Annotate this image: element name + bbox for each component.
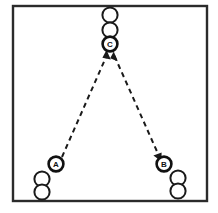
player-a[interactable]: A bbox=[49, 157, 64, 172]
diagram-canvas: C A B bbox=[0, 0, 218, 213]
player-c[interactable]: C bbox=[103, 37, 118, 52]
player-a-label: A bbox=[53, 160, 59, 169]
drill-diagram: C A B bbox=[0, 0, 218, 213]
player-left-queue-2[interactable] bbox=[34, 184, 49, 199]
player-top-queue-1[interactable] bbox=[102, 7, 117, 22]
player-c-label: C bbox=[107, 40, 113, 49]
player-b[interactable]: B bbox=[157, 157, 172, 172]
player-right-queue-2[interactable] bbox=[170, 183, 185, 198]
player-b-label: B bbox=[161, 160, 167, 169]
